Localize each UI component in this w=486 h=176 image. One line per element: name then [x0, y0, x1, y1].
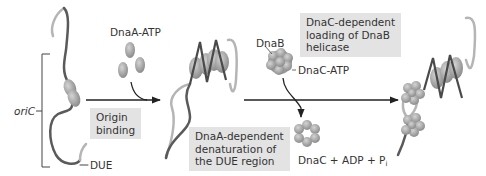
arrow-helicase-loading — [244, 78, 398, 117]
dnab-helicase-bottom — [401, 113, 425, 137]
dnaa-atp-proteins — [118, 42, 145, 78]
dnac-atp-label: DnaC-ATP — [298, 64, 349, 77]
arrow-origin-binding — [86, 82, 160, 100]
due-label: DUE — [90, 159, 112, 172]
oric-bracket — [36, 54, 50, 167]
oric-label: oriC — [14, 105, 35, 118]
products-label: DnaC + ADP + Pi — [298, 154, 387, 171]
step-due-denaturation: DnaA-dependent denaturation of the DUE r… — [189, 127, 290, 171]
dnaa-atp-label: DnaA-ATP — [110, 26, 161, 39]
step-helicase-loading: DnaC-dependent loading of DnaB helicase — [300, 13, 401, 57]
step-origin-binding: Origin binding — [90, 108, 141, 139]
dnab-label: DnaB — [256, 37, 284, 50]
dnab-helicase-top — [401, 81, 425, 105]
dnaa-bound-proteins — [61, 77, 82, 108]
released-dnac-ring — [294, 120, 320, 147]
